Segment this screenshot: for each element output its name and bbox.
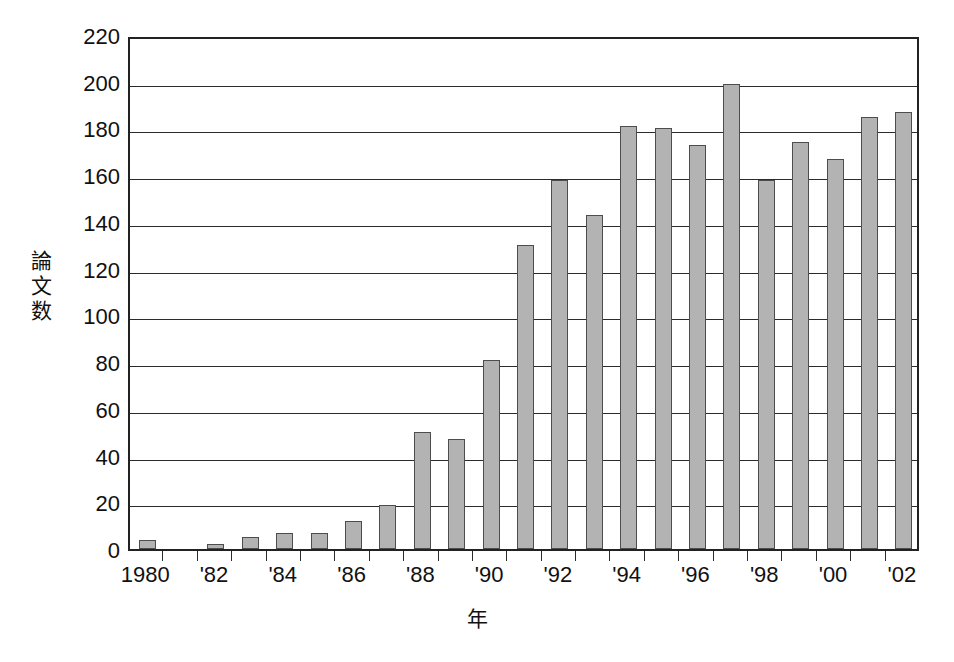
x-tick xyxy=(781,551,782,561)
bar xyxy=(139,540,156,549)
bars-series xyxy=(130,39,917,549)
y-axis-tick-labels: 220200180160140120100806040200 xyxy=(58,0,120,662)
y-tick-label: 180 xyxy=(58,119,120,141)
x-tick-label: '88 xyxy=(406,562,435,588)
x-tick-label: '00 xyxy=(819,562,848,588)
bar xyxy=(895,112,912,549)
x-tick xyxy=(644,551,645,561)
y-tick-label: 80 xyxy=(58,353,120,375)
x-tick xyxy=(609,551,610,561)
x-tick xyxy=(506,551,507,561)
x-tick xyxy=(300,551,301,561)
x-tick xyxy=(885,551,886,561)
bar xyxy=(483,360,500,549)
x-tick xyxy=(747,551,748,561)
x-tick-label: '92 xyxy=(544,562,573,588)
y-tick-label: 160 xyxy=(58,166,120,188)
x-tick xyxy=(438,551,439,561)
bar xyxy=(551,180,568,549)
bar xyxy=(758,180,775,549)
y-tick-label: 140 xyxy=(58,213,120,235)
bar xyxy=(517,245,534,549)
bar xyxy=(276,533,293,549)
bar xyxy=(207,544,224,549)
x-tick-label: '98 xyxy=(750,562,779,588)
y-tick-label: 220 xyxy=(58,26,120,48)
x-tick xyxy=(678,551,679,561)
bar xyxy=(242,537,259,549)
y-axis-title: 論 文 数 xyxy=(28,248,54,323)
x-tick-label: '94 xyxy=(612,562,641,588)
x-tick xyxy=(334,551,335,561)
x-tick xyxy=(541,551,542,561)
bar-chart-figure: 論 文 数 220200180160140120100806040200 198… xyxy=(0,0,954,662)
x-tick xyxy=(403,551,404,561)
bar xyxy=(689,145,706,549)
x-tick-label: '02 xyxy=(887,562,916,588)
bar xyxy=(345,521,362,549)
bar xyxy=(792,142,809,549)
x-tick-label: '86 xyxy=(337,562,366,588)
x-axis-title: 年 xyxy=(0,606,954,632)
x-tick-label: '82 xyxy=(200,562,229,588)
x-tick xyxy=(816,551,817,561)
y-tick-label: 40 xyxy=(58,447,120,469)
y-tick-label: 120 xyxy=(58,260,120,282)
x-tick xyxy=(575,551,576,561)
y-tick-label: 200 xyxy=(58,73,120,95)
y-tick-label: 20 xyxy=(58,493,120,515)
x-tick-label: '90 xyxy=(475,562,504,588)
bar xyxy=(414,432,431,549)
y-tick-label: 0 xyxy=(58,540,120,562)
x-tick xyxy=(713,551,714,561)
bar xyxy=(861,117,878,549)
bar xyxy=(311,533,328,549)
bar xyxy=(586,215,603,549)
bar xyxy=(620,126,637,549)
bar xyxy=(379,505,396,549)
plot-area xyxy=(128,37,919,551)
bar xyxy=(723,84,740,549)
x-tick xyxy=(472,551,473,561)
x-tick xyxy=(197,551,198,561)
bar xyxy=(827,159,844,549)
x-tick xyxy=(231,551,232,561)
bar xyxy=(448,439,465,549)
bar xyxy=(655,128,672,549)
x-tick-label: '84 xyxy=(268,562,297,588)
x-tick xyxy=(850,551,851,561)
x-tick xyxy=(266,551,267,561)
x-tick-label: 1980 xyxy=(121,562,170,588)
x-tick xyxy=(369,551,370,561)
x-tick-label: '96 xyxy=(681,562,710,588)
x-tick xyxy=(162,551,163,561)
x-axis-tick-labels: 1980'82'84'86'88'90'92'94'96'98'00'02 xyxy=(128,562,919,596)
y-tick-label: 100 xyxy=(58,306,120,328)
y-tick-label: 60 xyxy=(58,400,120,422)
